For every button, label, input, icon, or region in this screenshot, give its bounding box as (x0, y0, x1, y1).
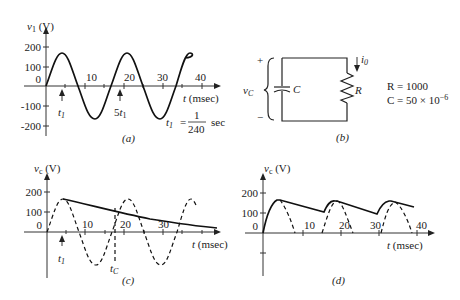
a-ytick-200: 200 (25, 41, 42, 53)
d-ytick-100: 100 (242, 207, 259, 219)
a-ytick-neg100: -100 (21, 100, 42, 112)
b-vc-label: vC (243, 84, 254, 98)
d-y-label: vc (V) (264, 162, 291, 176)
d-ytick-0: 0 (253, 220, 259, 232)
c-y-label: vc (V) (34, 162, 61, 176)
svg-text:t1: t1 (166, 116, 173, 130)
b-bottom-wire (282, 91, 347, 121)
svg-text:1: 1 (194, 109, 200, 121)
b-top-wire (282, 58, 347, 73)
panel-c: vc (V) 200 100 0 10 20 30 t (msec) t1 tC… (24, 162, 228, 287)
a-x-label: t (msec) (183, 92, 219, 105)
b-plus-sign: + (257, 54, 263, 66)
b-brace (264, 58, 274, 120)
svg-text:sec: sec (211, 116, 225, 128)
b-param-r: R = 1000 (387, 80, 429, 92)
c-ytick-200: 200 (26, 186, 43, 198)
c-tc-label: tC (110, 262, 119, 276)
c-xtick-10: 10 (82, 218, 94, 230)
d-caption: (d) (332, 274, 345, 287)
a-caption: (a) (122, 132, 135, 145)
a-t1-label: t1 (58, 106, 65, 120)
a-xtick-30: 30 (157, 71, 169, 83)
a-5t1-label: 5t1 (114, 106, 127, 120)
svg-text:240: 240 (188, 123, 205, 135)
c-ytick-100: 100 (26, 206, 43, 218)
a-ytick-100: 100 (25, 61, 42, 73)
b-current-label: i0 (361, 53, 368, 67)
b-caption: (b) (336, 131, 349, 144)
a-t1-note: t1 = 1 240 sec (166, 109, 225, 135)
a-xtick-40: 40 (195, 71, 207, 83)
c-xtick-20: 20 (120, 218, 132, 230)
a-ytick-0: 0 (36, 73, 42, 85)
b-minus-sign: − (257, 111, 263, 123)
a-y-label: v1 (V) (27, 20, 54, 34)
b-param-c: C = 50 × 10−6 (387, 93, 448, 106)
c-t1-label: t1 (58, 252, 65, 266)
d-xtick-10: 10 (304, 219, 316, 231)
d-xtick-40: 40 (416, 219, 428, 231)
resistor-symbol (341, 73, 353, 103)
panel-d: vc (V) 200 100 0 10 20 30 40 t (msec) (d… (242, 162, 433, 287)
d-x-label: t (msec) (387, 239, 423, 252)
d-ytick-200: 200 (242, 187, 259, 199)
a-ytick-neg200: -200 (21, 120, 42, 132)
c-ytick-0: 0 (37, 219, 43, 231)
b-res-label: R (354, 84, 362, 96)
d-xtick-30: 30 (370, 219, 382, 231)
c-x-label: t (msec) (192, 238, 228, 251)
c-caption: (c) (122, 274, 135, 287)
panel-b: C R i0 + − vC R = 1000 C = 50 × 10−6 (b) (243, 53, 448, 144)
svg-text:=: = (180, 116, 186, 128)
b-cap-label: C (293, 83, 301, 95)
a-xtick-20: 20 (124, 71, 136, 83)
panel-a: v1 (V) 200 100 0 -100 -200 10 20 30 40 t… (21, 20, 225, 145)
a-xtick-10: 10 (86, 71, 98, 83)
